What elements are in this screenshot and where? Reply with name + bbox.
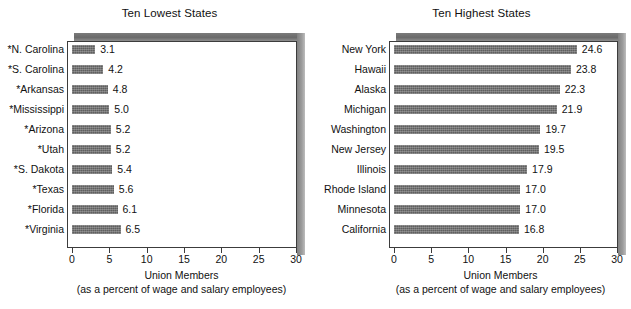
bar-value-label: 17.9 [532,162,552,176]
bar-row: Illinois17.9 [316,161,631,181]
bar-value-label: 3.1 [100,42,115,56]
bar-value-label: 5.2 [116,122,131,136]
bar-category-label: Minnesota [316,202,386,216]
bar [394,145,539,154]
bar-category-label: Michigan [316,102,386,116]
x-axis-tick-label: 0 [380,252,408,266]
bar-category-label: *Virginia [0,222,64,236]
bar-value-label: 21.9 [562,102,582,116]
bar [394,85,560,94]
bar-value-label: 22.3 [565,82,585,96]
bar-value-label: 5.0 [114,102,129,116]
bar-category-label: *Utah [0,142,64,156]
bar [394,45,577,54]
bar-value-label: 4.2 [108,62,123,76]
bar [72,205,118,214]
x-axis-tick-label: 15 [492,252,520,266]
x-axis-tick-label: 25 [566,252,594,266]
x-axis-title-highest: Union Members [316,268,631,282]
x-axis-tick-label: 10 [133,252,161,266]
bar-value-label: 6.1 [123,202,138,216]
two-panel-bar-chart-figure: Ten Lowest States *N. Carolina3.1*S. Car… [0,0,631,309]
x-axis-title-lowest: Union Members [0,268,315,282]
x-axis-tick-label: 10 [454,252,482,266]
bar-row: Hawaii23.8 [316,61,631,81]
bar-category-label: California [316,222,386,236]
bar [394,185,520,194]
bar-row: *Arkansas4.8 [0,81,315,101]
bar-category-label: *S. Dakota [0,162,64,176]
bar-value-label: 19.7 [545,122,565,136]
bar [72,165,112,174]
bar [72,145,111,154]
bar-category-label: New Jersey [316,142,386,156]
x-axis-tick-label: 20 [529,252,557,266]
bar-category-label: Washington [316,122,386,136]
bar [72,45,95,54]
x-axis-tick-label: 25 [245,252,273,266]
bar-category-label: *Florida [0,202,64,216]
bar-value-label: 4.8 [113,82,128,96]
bar [394,125,540,134]
bar [394,205,520,214]
panel-title-highest: Ten Highest States [316,7,631,19]
x-axis-subtitle-highest: (as a percent of wage and salary employe… [316,282,631,296]
bar-row: *Texas5.6 [0,181,315,201]
bar-row: New Jersey19.5 [316,141,631,161]
bar-row: *Mississippi5.0 [0,101,315,121]
bar-row: *S. Dakota5.4 [0,161,315,181]
x-axis-tick-label: 30 [282,252,310,266]
bar [394,225,519,234]
bar [72,65,103,74]
bar-row: Rhode Island17.0 [316,181,631,201]
bar-category-label: *Texas [0,182,64,196]
x-axis-tick-label: 0 [58,252,86,266]
bar-value-label: 5.6 [119,182,134,196]
bar-value-label: 16.8 [524,222,544,236]
x-axis-tick-label: 15 [170,252,198,266]
bar-row: Michigan21.9 [316,101,631,121]
bar [72,125,111,134]
bar-value-label: 24.6 [582,42,602,56]
bar-row: California16.8 [316,221,631,241]
x-axis-subtitle-lowest: (as a percent of wage and salary employe… [0,282,315,296]
bar-category-label: New York [316,42,386,56]
bar-value-label: 17.0 [525,182,545,196]
bar [72,185,114,194]
chart-panel-lowest-states: Ten Lowest States *N. Carolina3.1*S. Car… [0,0,315,309]
bar-row: Alaska22.3 [316,81,631,101]
bar-value-label: 19.5 [544,142,564,156]
bar-row: *Virginia6.5 [0,221,315,241]
bar [394,105,557,114]
x-axis-tick-label: 5 [417,252,445,266]
x-axis-tick-label: 20 [207,252,235,266]
bar [394,65,571,74]
bar [72,85,108,94]
bar-category-label: *Arizona [0,122,64,136]
x-axis-tick-label: 30 [603,252,631,266]
bar-row: Minnesota17.0 [316,201,631,221]
bar-category-label: *Arkansas [0,82,64,96]
bar-row: *Utah5.2 [0,141,315,161]
bar-value-label: 6.5 [126,222,141,236]
bar-rows-highest: New York24.6Hawaii23.8Alaska22.3Michigan… [316,41,631,241]
bar-value-label: 5.2 [116,142,131,156]
bar [72,225,121,234]
bar-category-label: *Mississippi [0,102,64,116]
bar [394,165,527,174]
bar-category-label: *N. Carolina [0,42,64,56]
chart-panel-highest-states: Ten Highest States New York24.6Hawaii23.… [316,0,631,309]
bar-value-label: 5.4 [117,162,132,176]
plot-shadow-top [74,33,305,41]
bar-row: *N. Carolina3.1 [0,41,315,61]
plot-shadow-top [396,33,626,41]
panel-title-lowest: Ten Lowest States [0,7,315,19]
bar [72,105,109,114]
bar-category-label: Illinois [316,162,386,176]
bar-row: New York24.6 [316,41,631,61]
bar-row: *Arizona5.2 [0,121,315,141]
bar-row: *S. Carolina4.2 [0,61,315,81]
bar-value-label: 23.8 [576,62,596,76]
bar-category-label: Alaska [316,82,386,96]
bar-rows-lowest: *N. Carolina3.1*S. Carolina4.2*Arkansas4… [0,41,315,241]
